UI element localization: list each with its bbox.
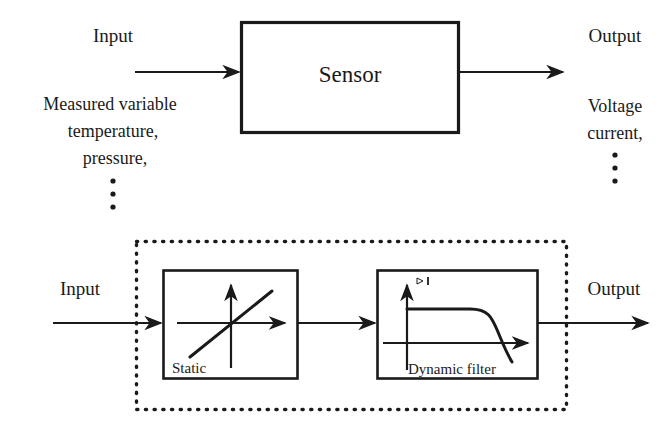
top-output-example-1: current, (587, 123, 642, 143)
top-output-example-0: Voltage (588, 96, 643, 116)
top-input-example-1: temperature, (68, 121, 158, 141)
top-output-ellipsis-dot (612, 178, 617, 183)
top-input-ellipsis-dot (110, 204, 115, 209)
bottom-output-label: Output (588, 278, 642, 299)
bottom-input-label: Input (60, 278, 101, 299)
sensor-block-diagram-figure: Input Measured variable temperature, pre… (0, 0, 670, 426)
dynamic-filter-block-label: Dynamic filter (408, 361, 496, 377)
top-output-ellipsis-dot (612, 152, 617, 157)
sensor-block-label: Sensor (319, 62, 382, 87)
top-input-example-0: Measured variable (43, 94, 176, 114)
top-input-example-2: pressure, (83, 148, 147, 168)
static-block-label: Static (172, 360, 207, 376)
diagram-canvas: Input Measured variable temperature, pre… (0, 0, 670, 426)
top-output-ellipsis-dot (612, 165, 617, 170)
top-output-label: Output (589, 25, 643, 46)
top-input-ellipsis-dot (110, 178, 115, 183)
top-input-ellipsis-dot (110, 191, 115, 196)
top-input-label: Input (93, 25, 134, 46)
